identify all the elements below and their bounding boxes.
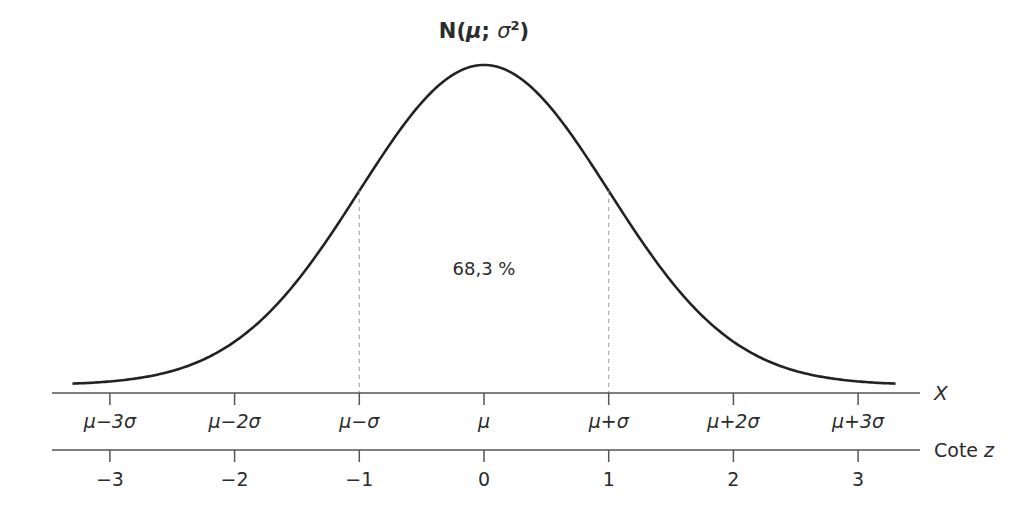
- x-tick-label: μ−3σ: [83, 410, 137, 432]
- x-axis-label: X: [933, 381, 949, 405]
- z-tick-label: 0: [478, 468, 490, 490]
- z-axis-label: Cote z: [934, 439, 995, 461]
- area-annotation: 68,3 %: [453, 258, 516, 279]
- x-axis-ticks: μ−3σμ−2σμ−σμμ+σμ+2σμ+3σ: [83, 393, 885, 432]
- normal-distribution-chart: N(μ; σ2) 68,3 % X μ−3σμ−2σμ−σμμ+σμ+2σμ+3…: [0, 0, 1032, 521]
- x-tick-label: μ+3σ: [831, 410, 885, 432]
- chart-title: N(μ; σ2): [439, 18, 529, 43]
- z-tick-label: 1: [603, 468, 615, 490]
- z-axis-ticks: −3−2−10123: [96, 450, 864, 490]
- x-tick-label: μ−σ: [338, 410, 380, 432]
- sigma-dashed-lines: [359, 191, 608, 393]
- z-tick-label: −1: [345, 468, 373, 490]
- z-tick-label: −3: [96, 468, 124, 490]
- x-tick-label: μ+2σ: [706, 410, 760, 432]
- z-tick-label: 2: [727, 468, 739, 490]
- z-tick-label: −2: [221, 468, 249, 490]
- x-tick-label: μ−2σ: [208, 410, 262, 432]
- z-tick-label: 3: [852, 468, 864, 490]
- x-tick-label: μ: [477, 410, 490, 432]
- x-tick-label: μ+σ: [588, 410, 630, 432]
- density-curve: [72, 65, 895, 384]
